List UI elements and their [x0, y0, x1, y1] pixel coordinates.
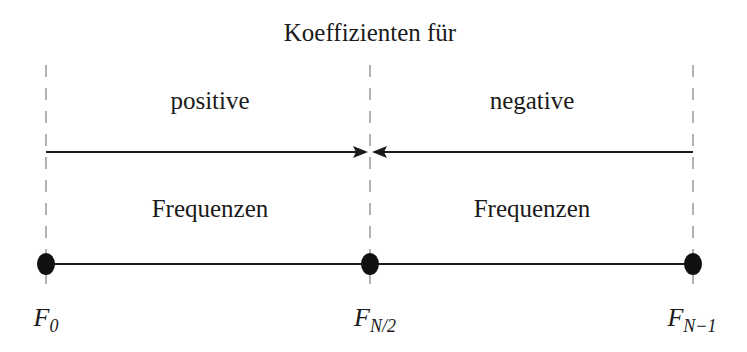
region-negative-bottom-label: Frequenzen — [474, 196, 591, 221]
region-negative-top-label: negative — [490, 88, 575, 113]
frequency-diagram — [0, 0, 747, 352]
point-fn1-dot — [684, 253, 702, 275]
region-positive-top-label: positive — [170, 88, 249, 113]
point-label-f0: F0 — [34, 305, 59, 335]
point-fn2-dot — [361, 253, 379, 275]
diagram-title: Koeffizienten für — [284, 20, 456, 45]
point-label-fn2: FN/2 — [354, 305, 396, 335]
region-positive-bottom-label: Frequenzen — [152, 196, 269, 221]
point-label-fn1: FN−1 — [667, 305, 716, 335]
point-f0-dot — [37, 253, 55, 275]
